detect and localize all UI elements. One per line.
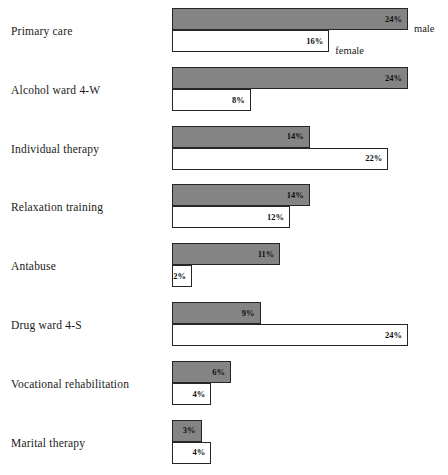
legend-label-female: female [335,46,364,57]
bar-value-male: 14% [287,132,309,141]
bar-male: 14% [172,184,310,206]
category-label: Alcohol ward 4-W [11,66,100,114]
bar-value-male: 14% [287,191,309,200]
bar-male: 24% [172,67,408,89]
chart-row: Alcohol ward 4-W24%8% [0,66,448,114]
bar-group: 24%8% [172,66,448,114]
chart-row: Drug ward 4-S9%24% [0,301,448,349]
bar-male: 11% [172,243,280,265]
bar-value-male: 11% [258,250,280,259]
bar-value-female: 4% [193,390,211,399]
bar-group: 14%12% [172,183,448,231]
bar-value-female: 16% [306,37,328,46]
bar-value-female: 24% [385,331,407,340]
bar-female: 8% [172,89,251,111]
bar-female: 12% [172,206,290,228]
bar-male: 9% [172,302,261,324]
category-label: Relaxation training [11,183,103,231]
bar-group: 3%4% [172,419,448,467]
bar-value-male: 24% [385,15,407,24]
bar-value-male: 3% [183,426,201,435]
bar-group: 9%24% [172,301,448,349]
bar-group: 6%4% [172,360,448,408]
bar-value-male: 6% [212,368,230,377]
chart-row: Vocational rehabilitation6%4% [0,360,448,408]
bar-female: 16% [172,30,329,52]
bar-female: 24% [172,324,408,346]
bar-value-female: 22% [365,154,387,163]
chart-row: Primary care24%16%malefemale [0,7,448,55]
category-label: Individual therapy [11,125,99,173]
chart-row: Antabuse11%2% [0,242,448,290]
category-label: Marital therapy [11,419,85,467]
legend-label-male: male [414,24,434,35]
bar-female: 4% [172,383,211,405]
bar-male: 24% [172,8,408,30]
bar-group: 24%16% [172,7,448,55]
bar-male: 6% [172,361,231,383]
chart-row: Relaxation training14%12% [0,183,448,231]
bar-male: 3% [172,420,202,442]
chart-row: Individual therapy14%22% [0,125,448,173]
bar-female: 4% [172,442,211,464]
bar-female: 22% [172,148,388,170]
category-label: Vocational rehabilitation [11,360,129,408]
bar-group: 14%22% [172,125,448,173]
category-label: Drug ward 4-S [11,301,82,349]
bar-value-female: 12% [267,213,289,222]
bar-chart: Primary care24%16%malefemaleAlcohol ward… [0,0,448,475]
bar-value-female: 2% [173,272,191,281]
bar-value-female: 8% [232,96,250,105]
bar-female: 2% [172,265,192,287]
category-label: Primary care [11,7,72,55]
bar-value-male: 9% [242,309,260,318]
bar-value-male: 24% [385,74,407,83]
bar-value-female: 4% [193,448,211,457]
bar-group: 11%2% [172,242,448,290]
category-label: Antabuse [11,242,56,290]
chart-row: Marital therapy3%4% [0,419,448,467]
bar-male: 14% [172,126,310,148]
